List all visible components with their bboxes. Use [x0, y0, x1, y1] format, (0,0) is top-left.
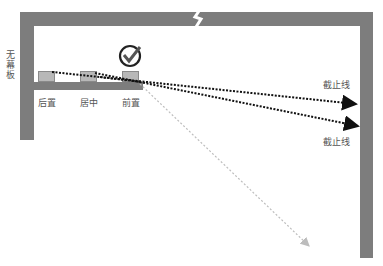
check-circle-icon: [120, 46, 140, 66]
light-arrow: [140, 84, 309, 246]
cutoff-arrow-upper: [52, 72, 356, 104]
lightning-icon: [195, 11, 201, 27]
diagram-lines: [0, 0, 383, 266]
